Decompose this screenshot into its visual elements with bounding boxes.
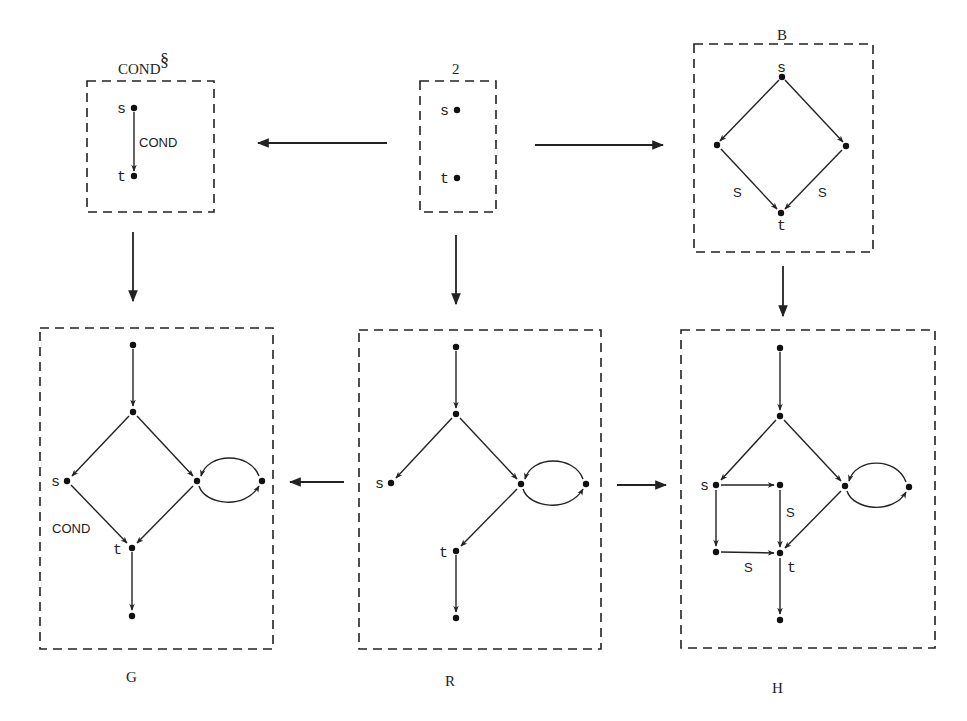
node-t-label: t bbox=[117, 169, 126, 186]
cond-edge-label: COND bbox=[139, 135, 177, 150]
cond-section-title: COND bbox=[118, 61, 161, 77]
edge-left-label: S bbox=[733, 185, 742, 200]
graph-r: s t R bbox=[359, 330, 601, 689]
node-t bbox=[778, 210, 784, 216]
edge-mid-right bbox=[460, 418, 517, 479]
node-s bbox=[713, 482, 719, 488]
node-top bbox=[777, 345, 783, 351]
node-bottom bbox=[777, 617, 783, 623]
node-t-label: t bbox=[113, 542, 122, 559]
node-top bbox=[130, 342, 136, 348]
node-mid bbox=[453, 411, 459, 417]
graph-b: B s t S S bbox=[694, 27, 873, 252]
edge-vertical-label: S bbox=[786, 505, 795, 520]
node-s bbox=[454, 107, 460, 113]
loop-edge-lower bbox=[847, 491, 906, 507]
node-t-label: t bbox=[439, 545, 448, 562]
node-right bbox=[843, 143, 849, 149]
node-s-right bbox=[777, 482, 783, 488]
edge-left-t bbox=[721, 149, 777, 209]
node-bottom bbox=[453, 615, 459, 621]
node-s bbox=[388, 480, 394, 486]
node-s bbox=[131, 105, 137, 111]
node-s-label: s bbox=[117, 101, 126, 118]
cond-section-superscript: § bbox=[160, 50, 169, 70]
edge-s-left bbox=[720, 80, 779, 141]
node-s-label: s bbox=[777, 60, 786, 77]
node-s-label: s bbox=[440, 103, 449, 120]
node-s-below bbox=[713, 549, 719, 555]
edge-right-t bbox=[785, 150, 842, 209]
loop-edge-upper bbox=[201, 458, 259, 476]
node-top bbox=[453, 344, 459, 350]
edge-mid-s bbox=[721, 420, 776, 480]
node-t bbox=[453, 548, 459, 554]
node-s-label: s bbox=[375, 476, 384, 493]
r-title: R bbox=[445, 673, 455, 689]
node-far-right bbox=[906, 484, 912, 490]
loop-edge-upper bbox=[849, 463, 906, 482]
graph-h: s t S S H bbox=[681, 330, 935, 696]
morphism-arrows bbox=[133, 143, 783, 485]
node-bottom bbox=[129, 613, 135, 619]
node-right bbox=[194, 478, 200, 484]
node-t-label: t bbox=[440, 171, 449, 188]
node-right bbox=[842, 483, 848, 489]
graph-cond-section: COND § s t COND bbox=[87, 50, 214, 212]
node-s bbox=[64, 478, 70, 484]
node-t bbox=[131, 173, 137, 179]
node-t bbox=[777, 550, 783, 556]
b-title: B bbox=[777, 27, 787, 43]
loop-edge-upper bbox=[525, 461, 583, 479]
edge-horizontal-label: S bbox=[744, 560, 753, 575]
node-t bbox=[129, 545, 135, 551]
node-right bbox=[518, 481, 524, 487]
node-t-label: t bbox=[777, 218, 786, 235]
g-title: G bbox=[126, 669, 137, 685]
node-s-label: s bbox=[700, 478, 709, 495]
edge-right-label: S bbox=[818, 185, 827, 200]
node-t bbox=[454, 175, 460, 181]
h-box bbox=[681, 330, 935, 648]
node-left bbox=[714, 142, 720, 148]
graph-two: 2 s t bbox=[420, 61, 496, 212]
edge-right-t bbox=[137, 486, 193, 543]
node-mid bbox=[777, 413, 783, 419]
edge-cond-label: COND bbox=[52, 521, 90, 536]
node-t-label: t bbox=[787, 560, 796, 577]
edge-s-right bbox=[785, 80, 843, 142]
graph-g: s t COND G bbox=[40, 328, 273, 685]
two-title: 2 bbox=[452, 61, 460, 77]
edge-sb-t-S bbox=[721, 552, 774, 553]
node-s-label: s bbox=[51, 474, 60, 491]
node-far-right bbox=[259, 478, 265, 484]
edge-mid-right bbox=[784, 420, 841, 481]
loop-edge-lower bbox=[523, 489, 583, 505]
r-box bbox=[359, 330, 601, 649]
node-far-right bbox=[583, 481, 589, 487]
two-box bbox=[420, 81, 496, 212]
edge-mid-right bbox=[137, 416, 193, 476]
graph-rewriting-diagram: COND § s t COND 2 s t B s t S S bbox=[0, 0, 967, 721]
edge-mid-s bbox=[396, 418, 452, 478]
edge-mid-s bbox=[72, 416, 129, 476]
h-title: H bbox=[772, 680, 783, 696]
edge-right-t bbox=[461, 489, 517, 546]
loop-edge-lower bbox=[199, 486, 259, 502]
node-mid bbox=[130, 409, 136, 415]
